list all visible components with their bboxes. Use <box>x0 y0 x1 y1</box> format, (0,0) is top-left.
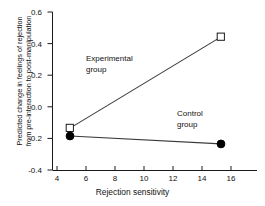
annotation-experimental-group: Experimental group <box>86 54 133 75</box>
marker-control-left <box>66 132 74 140</box>
chart-figure: Predicted change in feelings of rejectio… <box>0 0 265 206</box>
marker-control-right <box>217 140 225 148</box>
y-tick-marks <box>48 12 53 170</box>
marker-experimental-left <box>66 124 73 131</box>
annotation-experimental-line-1: Experimental <box>86 54 133 65</box>
annotation-experimental-line-2: group <box>86 65 133 76</box>
annotation-control-group: Control group <box>177 109 203 130</box>
annotation-control-line-2: group <box>177 120 203 131</box>
x-axis-label: Rejection sensitivity <box>0 187 265 197</box>
plot-area <box>0 0 265 206</box>
x-tick-marks <box>57 166 231 171</box>
annotation-control-line-1: Control <box>177 109 203 120</box>
marker-experimental-right <box>217 33 224 40</box>
series-line-control <box>70 136 221 144</box>
